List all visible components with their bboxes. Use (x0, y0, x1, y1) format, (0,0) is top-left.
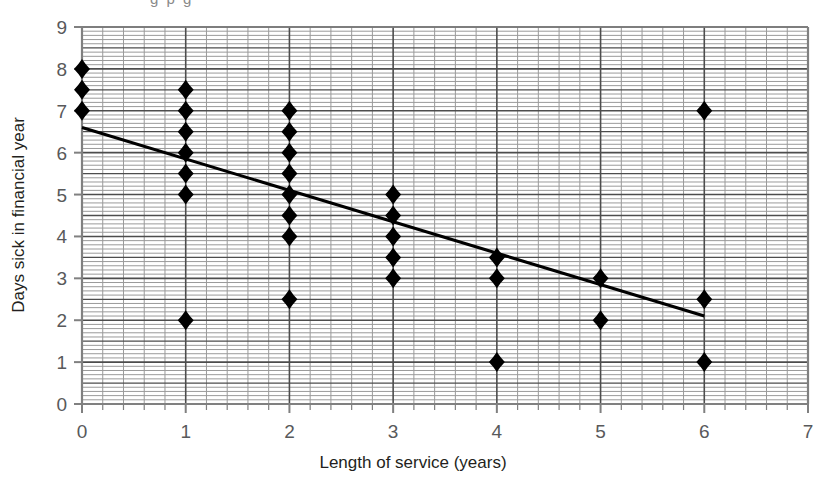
x-tick-label: 6 (699, 421, 710, 442)
x-tick-label: 1 (180, 421, 191, 442)
y-tick-label: 6 (56, 143, 67, 164)
data-point (385, 226, 401, 246)
data-point (178, 122, 194, 142)
chart-canvas: 01234567 0123456789 Length of service (y… (0, 0, 827, 480)
data-point (281, 206, 297, 226)
data-point (281, 122, 297, 142)
x-tick-label: 3 (388, 421, 399, 442)
x-axis-tick-labels: 01234567 (77, 421, 814, 442)
data-point (385, 247, 401, 267)
data-point (178, 185, 194, 205)
y-axis-tick-labels: 0123456789 (56, 17, 67, 415)
y-tick-label: 4 (56, 226, 67, 247)
y-tick-label: 7 (56, 101, 67, 122)
y-tick-label: 2 (56, 310, 67, 331)
data-point (74, 101, 90, 121)
x-tick-label: 5 (595, 421, 606, 442)
y-tick-label: 8 (56, 59, 67, 80)
data-point (178, 101, 194, 121)
data-point (696, 289, 712, 309)
data-point (281, 226, 297, 246)
x-tick-label: 7 (803, 421, 814, 442)
data-point (281, 101, 297, 121)
grid-major-lines (82, 27, 808, 404)
data-point (74, 80, 90, 100)
y-axis-title: Days sick in financial year (9, 117, 28, 313)
data-point (696, 352, 712, 372)
data-point (696, 101, 712, 121)
x-tick-label: 4 (492, 421, 503, 442)
y-tick-label: 5 (56, 185, 67, 206)
data-point (178, 80, 194, 100)
scatter-plot-figure: g p g 01234567 0123456789 Length of serv… (0, 0, 827, 480)
y-tick-label: 9 (56, 17, 67, 38)
x-tick-label: 0 (77, 421, 88, 442)
y-tick-label: 1 (56, 352, 67, 373)
y-tick-label: 0 (56, 394, 67, 415)
data-point (178, 164, 194, 184)
x-axis-title: Length of service (years) (319, 453, 506, 472)
data-point (178, 310, 194, 330)
x-tick-label: 2 (284, 421, 295, 442)
data-point (593, 310, 609, 330)
data-point (385, 185, 401, 205)
data-point (385, 268, 401, 288)
data-point (281, 289, 297, 309)
data-point (281, 164, 297, 184)
data-point (281, 143, 297, 163)
data-point (489, 352, 505, 372)
data-point (74, 59, 90, 79)
y-tick-label: 3 (56, 268, 67, 289)
data-point (489, 268, 505, 288)
